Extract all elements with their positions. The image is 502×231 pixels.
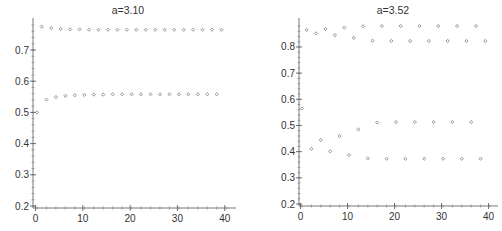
- data-point: [125, 28, 128, 31]
- data-point: [362, 25, 365, 28]
- data-point: [69, 28, 72, 31]
- y-tick-label: 0.7: [15, 45, 29, 56]
- data-point: [130, 93, 133, 96]
- data-point: [206, 93, 209, 96]
- data-point: [451, 120, 454, 123]
- data-point: [409, 39, 412, 42]
- data-point: [35, 111, 38, 114]
- y-tick-label: 0.2: [281, 199, 295, 210]
- x-tick-label: 10: [77, 213, 89, 224]
- data-point: [300, 107, 303, 110]
- plot-a-3-10: a=3.10 0.20.30.40.50.60.7010203040: [15, 4, 236, 224]
- x-tick-label: 30: [436, 211, 448, 222]
- y-tick-label: 0.3: [15, 169, 29, 180]
- data-point: [413, 120, 416, 123]
- data-point: [121, 93, 124, 96]
- data-point: [158, 93, 161, 96]
- x-tick-label: 0: [33, 213, 39, 224]
- data-point: [182, 28, 185, 31]
- y-tick-label: 0.3: [281, 172, 295, 183]
- data-point: [366, 157, 369, 160]
- data-point: [427, 39, 430, 42]
- data-point: [92, 93, 95, 96]
- x-tick-label: 0: [298, 211, 304, 222]
- data-point: [479, 157, 482, 160]
- data-point: [73, 94, 76, 97]
- data-point: [173, 28, 176, 31]
- plot-title: a=3.52: [377, 4, 410, 16]
- data-point: [347, 153, 350, 156]
- y-tick-label: 0.8: [281, 41, 295, 52]
- data-point: [324, 27, 327, 30]
- data-point: [338, 134, 341, 137]
- data-point: [376, 121, 379, 124]
- data-point: [371, 39, 374, 42]
- data-point: [333, 34, 336, 37]
- figure: a=3.10 0.20.30.40.50.60.7010203040 a=3.5…: [0, 0, 502, 231]
- data-point: [456, 24, 459, 27]
- data-point: [201, 28, 204, 31]
- data-point: [446, 39, 449, 42]
- data-points: [35, 25, 223, 114]
- data-point: [399, 24, 402, 27]
- data-point: [357, 128, 360, 131]
- data-point: [187, 93, 190, 96]
- data-point: [380, 24, 383, 27]
- plot-title: a=3.10: [112, 4, 145, 16]
- data-points: [300, 24, 487, 160]
- data-point: [465, 39, 468, 42]
- y-tick-label: 0.4: [15, 138, 29, 149]
- data-point: [135, 28, 138, 31]
- data-point: [64, 94, 67, 97]
- data-point: [343, 26, 346, 29]
- data-point: [394, 120, 397, 123]
- data-point: [215, 93, 218, 96]
- y-tick-label: 0.4: [281, 146, 295, 157]
- data-point: [315, 32, 318, 35]
- data-point: [78, 28, 81, 31]
- data-point: [460, 157, 463, 160]
- data-point: [45, 98, 48, 101]
- data-point: [418, 24, 421, 27]
- x-tick-label: 20: [389, 211, 401, 222]
- y-tick-label: 0.6: [15, 76, 29, 87]
- data-point: [50, 27, 53, 30]
- data-point: [83, 93, 86, 96]
- plot-a-3-52: a=3.52 0.20.30.40.50.60.70.8010203040: [281, 4, 498, 222]
- data-point: [390, 39, 393, 42]
- data-point: [352, 36, 355, 39]
- data-point: [87, 28, 90, 31]
- data-point: [470, 120, 473, 123]
- data-point: [59, 27, 62, 30]
- data-point: [484, 39, 487, 42]
- axes: 0.20.30.40.50.60.70.8010203040: [281, 18, 498, 222]
- data-point: [404, 157, 407, 160]
- x-tick-label: 40: [483, 211, 495, 222]
- data-point: [437, 24, 440, 27]
- data-point: [97, 28, 100, 31]
- data-point: [111, 93, 114, 96]
- y-tick-label: 0.5: [15, 107, 29, 118]
- data-point: [116, 28, 119, 31]
- data-point: [220, 28, 223, 31]
- data-point: [305, 28, 308, 31]
- data-point: [144, 28, 147, 31]
- data-point: [474, 24, 477, 27]
- data-point: [149, 93, 152, 96]
- data-point: [163, 28, 166, 31]
- y-tick-label: 0.2: [15, 201, 29, 212]
- data-point: [432, 120, 435, 123]
- data-point: [441, 157, 444, 160]
- x-tick-label: 30: [172, 213, 184, 224]
- data-point: [139, 93, 142, 96]
- data-point: [40, 25, 43, 28]
- data-point: [329, 150, 332, 153]
- data-point: [54, 96, 57, 99]
- y-tick-label: 0.7: [281, 68, 295, 79]
- data-point: [310, 147, 313, 150]
- x-tick-label: 40: [219, 213, 231, 224]
- data-point: [385, 157, 388, 160]
- data-point: [106, 28, 109, 31]
- y-tick-label: 0.6: [281, 94, 295, 105]
- data-point: [191, 28, 194, 31]
